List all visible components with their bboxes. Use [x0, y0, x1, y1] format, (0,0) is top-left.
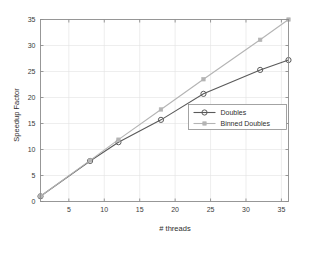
y-tick-label: 30	[28, 42, 36, 49]
chart-legend[interactable]: DoublesBinned Doubles	[189, 105, 287, 130]
x-tick-label: 35	[278, 206, 286, 213]
x-tick-label: 30	[242, 206, 250, 213]
y-tick-label: 5	[32, 172, 36, 179]
x-tick-label: 5	[67, 206, 71, 213]
x-tick-labels: 5101520253035	[67, 206, 286, 213]
y-axis-title: Speedup Factor	[12, 88, 21, 142]
legend-label-1[interactable]: Binned Doubles	[221, 120, 271, 127]
y-tick-label: 25	[28, 68, 36, 75]
y-tick-label: 10	[28, 146, 36, 153]
y-tick-label: 35	[28, 16, 36, 23]
x-axis-title: # threads	[159, 224, 191, 233]
y-tick-label: 15	[28, 120, 36, 127]
legend-label-0[interactable]: Doubles	[221, 109, 247, 116]
x-tick-label: 25	[207, 206, 215, 213]
legend-marker	[203, 122, 206, 125]
y-tick-labels: 05101520253035	[28, 16, 36, 205]
data-point-marker	[202, 78, 205, 81]
y-tick-label: 0	[32, 198, 36, 205]
x-tick-label: 15	[136, 206, 144, 213]
data-point-marker	[117, 138, 120, 141]
x-tick-label: 10	[100, 206, 108, 213]
x-tick-label: 20	[171, 206, 179, 213]
speedup-line-chart: 5101520253035 05101520253035 # threads S…	[0, 0, 314, 254]
y-tick-label: 20	[28, 94, 36, 101]
data-point-marker	[258, 38, 261, 41]
chart-figure: 5101520253035 05101520253035 # threads S…	[0, 0, 314, 254]
data-point-marker	[88, 159, 91, 162]
data-point-marker	[159, 108, 162, 111]
